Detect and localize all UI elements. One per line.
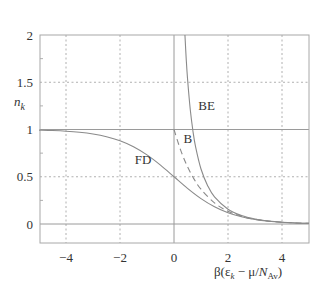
x-label-mid: − μ/ — [234, 264, 259, 279]
tick-labels: −4−202400.511.52 — [17, 28, 286, 266]
y-tick-label: 1 — [27, 122, 34, 137]
x-tick-label: −2 — [113, 250, 127, 265]
y-tick-label: 2 — [27, 28, 34, 43]
x-tick-label: 0 — [171, 250, 178, 265]
x-tick-label: 2 — [225, 250, 232, 265]
chart: −4−202400.511.52 FDBBE nk β(εk − μ/NAv) — [0, 0, 323, 295]
curve-label-be: BE — [198, 98, 215, 113]
x-axis-label: β(εk − μ/NAv) — [214, 264, 282, 281]
grid-lines — [40, 35, 309, 243]
x-label-prefix: β(ε — [214, 264, 231, 279]
y-tick-label: 0 — [27, 217, 34, 232]
x-label-sub2: Av — [268, 271, 279, 281]
x-label-suffix: ) — [278, 264, 282, 279]
y-label-sub: k — [21, 101, 26, 112]
x-tick-label: 4 — [279, 250, 286, 265]
curve-label-fd: FD — [135, 152, 152, 167]
y-axis-label: nk — [14, 94, 26, 112]
curve-label-b: B — [183, 131, 192, 146]
y-tick-label: 1.5 — [17, 75, 33, 90]
y-tick-label: 0.5 — [17, 169, 33, 184]
x-tick-label: −4 — [59, 250, 73, 265]
